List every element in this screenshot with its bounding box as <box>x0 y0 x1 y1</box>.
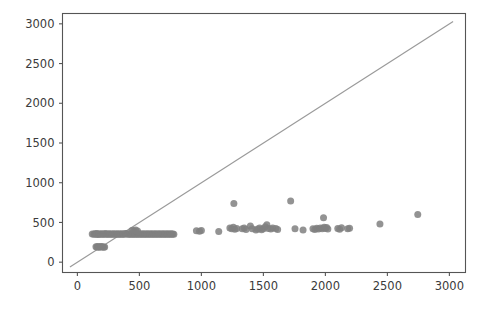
x-tick-label: 1000 <box>187 279 216 293</box>
data-point <box>292 225 299 232</box>
data-point <box>134 228 141 235</box>
x-tick-label: 2500 <box>373 279 402 293</box>
data-point <box>230 200 237 207</box>
data-point <box>346 225 353 232</box>
data-point <box>376 221 383 228</box>
data-point <box>198 227 205 234</box>
data-point <box>338 224 345 231</box>
y-tick-label: 0 <box>47 255 54 269</box>
data-point <box>101 243 108 250</box>
x-tick-label: 0 <box>74 279 81 293</box>
plot-canvas: 050010001500200025003000 050010001500200… <box>0 0 486 311</box>
y-tick-label: 2000 <box>25 96 54 110</box>
x-tick-label: 1500 <box>249 279 278 293</box>
y-tick-label: 1000 <box>25 176 54 190</box>
data-point <box>170 231 177 238</box>
x-tick-label: 3000 <box>435 279 464 293</box>
data-point <box>287 197 294 204</box>
x-tick-label: 2000 <box>311 279 340 293</box>
y-tick-label: 500 <box>33 216 55 230</box>
data-point <box>324 225 331 232</box>
y-tick-label: 1500 <box>25 136 54 150</box>
data-point <box>414 211 421 218</box>
y-tick-label: 2500 <box>25 57 54 71</box>
data-point <box>215 228 222 235</box>
data-point <box>320 214 327 221</box>
y-tick-label: 3000 <box>25 17 54 31</box>
data-point <box>274 226 281 233</box>
data-point <box>300 226 307 233</box>
x-tick-label: 500 <box>128 279 150 293</box>
scatter-plot-figure: 050010001500200025003000 050010001500200… <box>0 0 486 311</box>
